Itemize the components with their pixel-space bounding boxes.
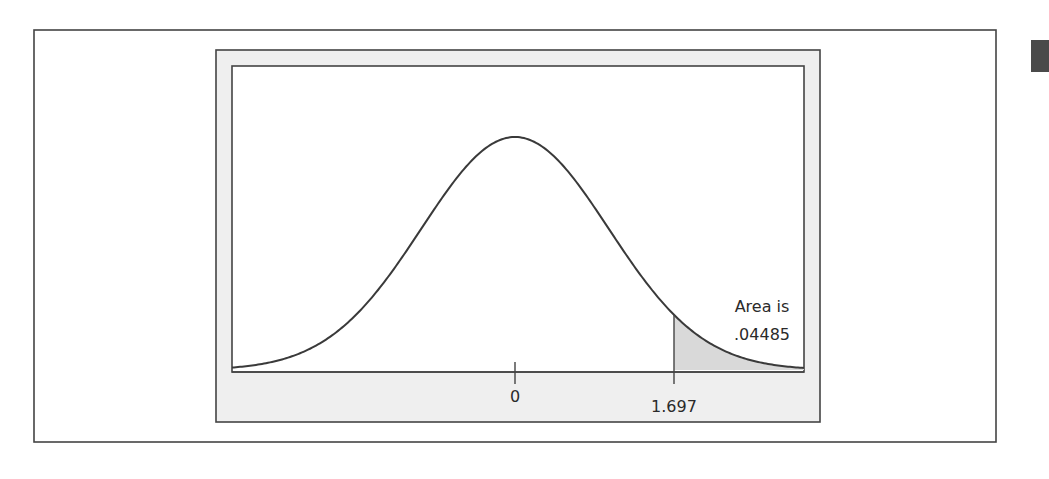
tick-label-zero: 0 [510,387,520,406]
area-annotation-line1: Area is [735,297,790,316]
t-distribution-chart: 0 1.697 Area is .04485 [0,0,1049,479]
plot-area [232,66,804,372]
area-annotation-value: .04485 [734,325,790,344]
figure: 0 1.697 Area is .04485 [0,0,1049,479]
tick-label-critical: 1.697 [651,397,697,416]
page-corner-mark [1031,40,1049,72]
